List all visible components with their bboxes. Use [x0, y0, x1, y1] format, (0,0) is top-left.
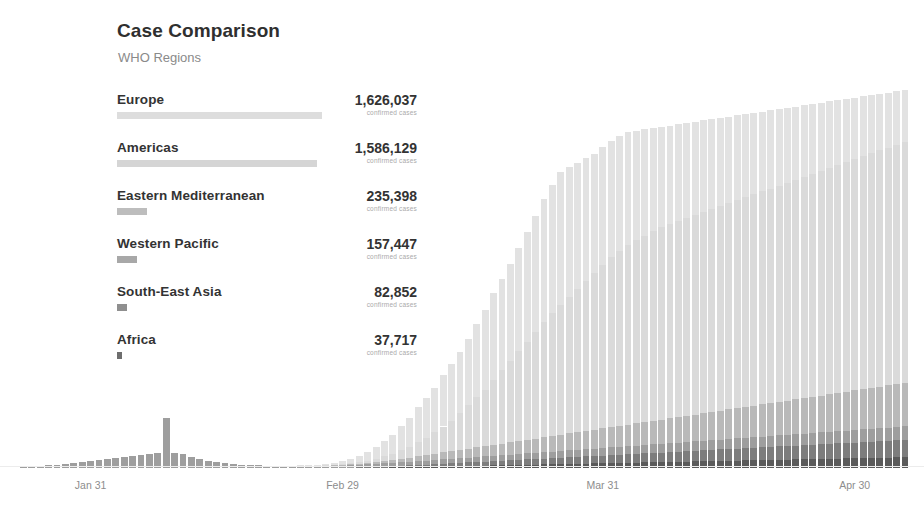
chart-bar[interactable]: [885, 93, 892, 468]
chart-bar[interactable]: [381, 441, 388, 468]
chart-bar[interactable]: [398, 426, 405, 468]
chart-bar-segment: [465, 405, 472, 448]
chart-bar[interactable]: [692, 122, 699, 468]
chart-bar[interactable]: [431, 387, 438, 468]
chart-bar[interactable]: [625, 132, 632, 468]
chart-bar[interactable]: [658, 127, 665, 468]
chart-bar[interactable]: [717, 118, 724, 468]
chart-bar[interactable]: [541, 199, 548, 468]
chart-bar-segment: [566, 457, 573, 464]
chart-bar[interactable]: [599, 147, 606, 468]
chart-bar-segment: [641, 422, 648, 445]
chart-bar-segment: [667, 126, 674, 224]
chart-bar-segment: [398, 467, 405, 468]
chart-bar[interactable]: [473, 324, 480, 468]
chart-bar[interactable]: [843, 99, 850, 468]
chart-bar[interactable]: [532, 216, 539, 468]
chart-bar-segment: [347, 463, 354, 464]
chart-bar-segment: [902, 142, 909, 383]
chart-bar[interactable]: [457, 352, 464, 468]
chart-bar[interactable]: [750, 113, 757, 468]
chart-bar[interactable]: [725, 117, 732, 468]
chart-bar[interactable]: [406, 418, 413, 468]
chart-bar[interactable]: [373, 447, 380, 468]
chart-bar[interactable]: [524, 232, 531, 468]
chart-bar[interactable]: [767, 110, 774, 468]
chart-bar[interactable]: [860, 96, 867, 468]
chart-bar[interactable]: [759, 112, 766, 468]
chart-bar[interactable]: [834, 100, 841, 468]
chart-bar[interactable]: [448, 364, 455, 468]
chart-bar[interactable]: [650, 128, 657, 468]
chart-bar-segment: [490, 380, 497, 445]
chart-bar[interactable]: [876, 94, 883, 468]
chart-bar[interactable]: [566, 167, 573, 468]
chart-bar[interactable]: [818, 103, 825, 468]
chart-bar[interactable]: [440, 375, 447, 468]
chart-bar-segment: [860, 389, 867, 429]
chart-bar[interactable]: [583, 158, 590, 468]
chart-bar-segment: [650, 421, 657, 445]
chart-bar[interactable]: [213, 462, 220, 468]
chart-bar[interactable]: [801, 105, 808, 468]
chart-bar-segment: [826, 101, 833, 168]
chart-bar[interactable]: [591, 154, 598, 468]
chart-bar[interactable]: [490, 293, 497, 468]
chart-bar[interactable]: [742, 114, 749, 468]
chart-bar[interactable]: [608, 141, 615, 468]
chart-bar[interactable]: [465, 339, 472, 468]
chart-bar[interactable]: [87, 461, 94, 468]
chart-bar[interactable]: [708, 119, 715, 468]
chart-bar-segment: [641, 453, 648, 462]
chart-bar-segment: [87, 461, 94, 468]
chart-bar[interactable]: [641, 129, 648, 468]
chart-bar-segment: [364, 463, 371, 464]
chart-bar-segment: [767, 110, 774, 188]
chart-bar-segment: [625, 132, 632, 245]
chart-bar[interactable]: [423, 398, 430, 468]
chart-bar[interactable]: [700, 120, 707, 468]
chart-bar-segment: [381, 456, 388, 461]
chart-bar[interactable]: [633, 131, 640, 468]
chart-bar-segment: [440, 375, 447, 427]
chart-bar[interactable]: [574, 163, 581, 468]
chart-bar[interactable]: [389, 435, 396, 468]
chart-bar[interactable]: [20, 467, 27, 468]
chart-bar-segment: [625, 454, 632, 463]
chart-bar-segment: [759, 112, 766, 192]
chart-bar[interactable]: [557, 172, 564, 468]
chart-bar[interactable]: [776, 109, 783, 468]
chart-bar-segment: [784, 446, 791, 460]
chart-bar[interactable]: [163, 418, 170, 468]
chart-bar-segment: [415, 442, 422, 456]
chart-bar[interactable]: [902, 90, 909, 468]
chart-bar[interactable]: [683, 123, 690, 468]
chart-bar-segment: [843, 431, 850, 443]
chart-bar[interactable]: [549, 185, 556, 468]
chart-bar[interactable]: [482, 310, 489, 468]
chart-bar-segment: [347, 464, 354, 465]
chart-bar[interactable]: [507, 264, 514, 468]
chart-bar-segment: [389, 454, 396, 460]
chart-bar[interactable]: [616, 136, 623, 468]
chart-bar[interactable]: [734, 115, 741, 468]
chart-bar-segment: [893, 440, 900, 457]
chart-bar[interactable]: [499, 279, 506, 468]
chart-bar-segment: [599, 448, 606, 455]
chart-bar[interactable]: [809, 104, 816, 468]
chart-bar[interactable]: [675, 124, 682, 468]
chart-bar[interactable]: [893, 91, 900, 468]
chart-bar[interactable]: [851, 98, 858, 468]
chart-bar[interactable]: [792, 107, 799, 468]
chart-bar-segment: [473, 397, 480, 447]
chart-bar[interactable]: [667, 126, 674, 469]
chart-bar[interactable]: [515, 248, 522, 468]
chart-bar-segment: [532, 439, 539, 453]
chart-bar-segment: [566, 167, 573, 297]
chart-bar[interactable]: [415, 407, 422, 468]
chart-bar-segment: [885, 441, 892, 458]
chart-bar[interactable]: [868, 95, 875, 468]
chart-bar[interactable]: [784, 108, 791, 468]
chart-bar[interactable]: [826, 101, 833, 468]
chart-bar-segment: [902, 90, 909, 142]
